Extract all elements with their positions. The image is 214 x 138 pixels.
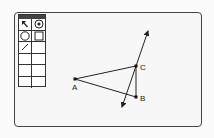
geometry-canvas[interactable]: A B C bbox=[0, 0, 214, 138]
point-b-label: B bbox=[140, 94, 145, 103]
point-c[interactable] bbox=[135, 65, 138, 68]
segment-ac[interactable] bbox=[75, 66, 136, 79]
point-b[interactable] bbox=[135, 96, 138, 99]
point-c-label: C bbox=[140, 63, 146, 72]
segment-ab[interactable] bbox=[75, 79, 136, 97]
point-a[interactable] bbox=[74, 78, 77, 81]
point-a-label: A bbox=[72, 83, 78, 92]
